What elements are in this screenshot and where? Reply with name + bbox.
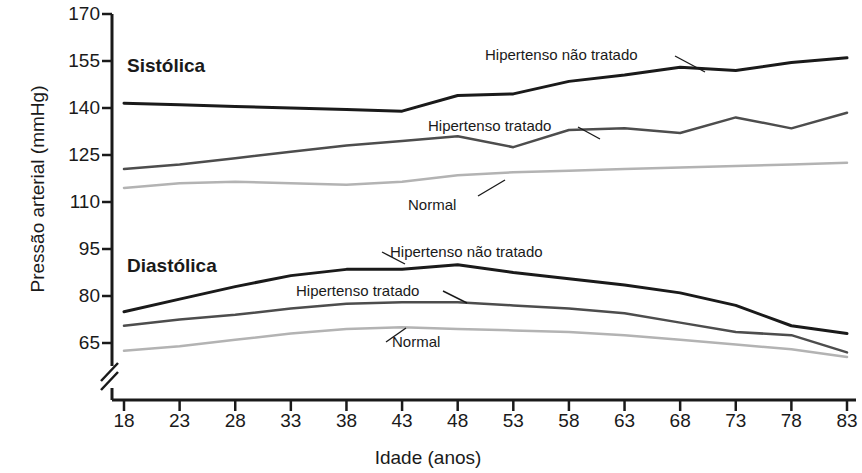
series-line	[124, 58, 847, 111]
series-line	[124, 265, 847, 334]
series-annotation-label: Normal	[408, 196, 456, 213]
series-annotation-label: Normal	[392, 333, 440, 350]
series-line	[124, 163, 847, 188]
y-axis-break-icon	[101, 363, 118, 390]
annotation-leader-line	[675, 56, 705, 72]
bp-group-label: Sistólica	[127, 55, 205, 77]
series-annotation-label: Hipertenso tratado	[296, 282, 419, 299]
series-annotation-label: Hipertenso não tratado	[485, 46, 638, 63]
series-annotation-label: Hipertenso tratado	[428, 117, 551, 134]
annotation-leader-line	[478, 180, 505, 196]
bp-group-label: Diastólica	[127, 255, 217, 277]
series-annotation-label: Hipertenso não tratado	[390, 243, 543, 260]
